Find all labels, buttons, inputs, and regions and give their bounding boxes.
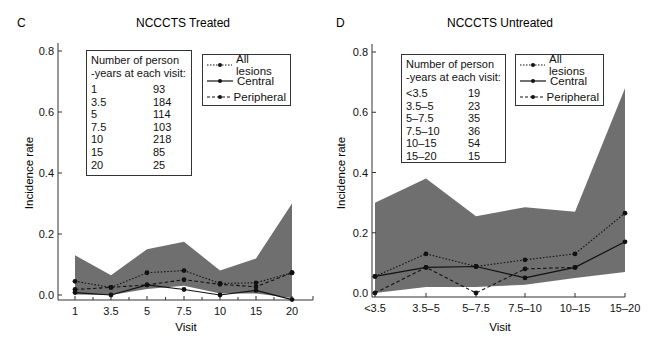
x-tick-label: <3.5 — [364, 302, 386, 314]
data-point — [145, 283, 150, 288]
legend-label: All lesions — [549, 53, 599, 77]
visit-cell: 15–20 — [406, 150, 468, 163]
data-point — [424, 265, 429, 270]
legend-item-peripheral: Peripheral — [520, 89, 599, 105]
value-cell: 114 — [153, 108, 171, 121]
visit-cell: <3.5 — [406, 87, 468, 100]
person-years-table-c: Number of person -years at each visit: 1… — [86, 50, 192, 176]
x-axis-label-c: Visit — [166, 321, 206, 333]
person-years-header-line1: Number of person — [91, 54, 187, 67]
y-tick-label: 0.4 — [353, 167, 368, 179]
person-years-header-d: Number of person -years at each visit: — [406, 58, 501, 84]
x-tick-label: 7.5–10 — [508, 302, 542, 314]
table-row: 3.5184 — [91, 96, 171, 109]
legend-item-peripheral: Peripheral — [207, 89, 286, 105]
figure: 0.00.20.40.60.813.557.51015200.00.20.40.… — [0, 0, 655, 341]
person-years-table-d: Number of person -years at each visit: <… — [401, 54, 506, 163]
dashed-line-marker-icon — [520, 93, 543, 101]
y-tick-label: 0.8 — [39, 45, 54, 57]
value-cell: 35 — [468, 112, 480, 125]
data-point — [623, 239, 628, 244]
data-point — [373, 291, 378, 296]
data-point — [373, 274, 378, 279]
legend-label: All lesions — [236, 53, 286, 77]
table-row: <3.519 — [406, 87, 480, 100]
table-row: 5114 — [91, 108, 171, 121]
person-years-header-line2: -years at each visit: — [406, 71, 501, 84]
legend-label: Peripheral — [547, 91, 599, 103]
y-tick-label: 0.6 — [39, 106, 54, 118]
visit-cell: 15 — [91, 146, 153, 159]
data-point — [523, 267, 528, 272]
value-cell: 23 — [468, 100, 480, 113]
visit-cell: 5–7.5 — [406, 112, 468, 125]
visit-cell: 1 — [91, 83, 153, 96]
x-axis-label-d: Visit — [480, 321, 520, 333]
solid-line-marker-icon — [520, 77, 546, 85]
visit-cell: 10–15 — [406, 137, 468, 150]
value-cell: 25 — [153, 159, 171, 172]
legend-label: Central — [237, 75, 274, 87]
value-cell: 218 — [153, 133, 171, 146]
value-cell: 19 — [468, 87, 480, 100]
y-tick-label: 0.0 — [39, 289, 54, 301]
panel-label-d: D — [336, 16, 345, 30]
value-cell: 93 — [153, 83, 171, 96]
visit-cell: 10 — [91, 133, 153, 146]
value-cell: 184 — [153, 96, 171, 109]
y-axis-label-c: Incidence rate — [23, 133, 35, 213]
data-point — [182, 268, 187, 273]
legend-label: Peripheral — [234, 91, 286, 103]
x-tick-label: 1 — [72, 305, 78, 317]
data-point — [145, 270, 150, 275]
data-point — [523, 257, 528, 262]
legend-d: All lesions Central Peripheral — [515, 54, 604, 106]
solid-line-marker-icon — [207, 77, 233, 85]
data-point — [290, 297, 295, 302]
value-cell: 85 — [153, 146, 171, 159]
confidence-band — [75, 204, 292, 299]
data-point — [218, 282, 223, 287]
person-years-header-line2: -years at each visit: — [91, 67, 187, 80]
value-cell: 15 — [468, 150, 480, 163]
x-tick-label: 20 — [286, 305, 298, 317]
x-tick-label: 15–20 — [610, 302, 641, 314]
legend-item-all-lesions: All lesions — [520, 57, 599, 73]
legend-item-all-lesions: All lesions — [207, 57, 286, 73]
table-row: 7.5–1036 — [406, 125, 480, 138]
y-tick-label: 0.0 — [353, 287, 368, 299]
table-row: 193 — [91, 83, 171, 96]
y-axis-label-d: Incidence rate — [335, 133, 347, 213]
value-cell: 103 — [153, 121, 171, 134]
dashed-line-marker-icon — [207, 93, 230, 101]
value-cell: 36 — [468, 125, 480, 138]
table-row: 10218 — [91, 133, 171, 146]
data-point — [182, 287, 187, 292]
data-point — [182, 277, 187, 282]
dotted-line-marker-icon — [207, 61, 232, 69]
data-point — [73, 287, 78, 292]
y-tick-label: 0.6 — [353, 106, 368, 118]
visit-cell: 7.5 — [91, 121, 153, 134]
y-tick-label: 0.2 — [39, 228, 54, 240]
table-row: 3.5–523 — [406, 100, 480, 113]
table-row: 2025 — [91, 159, 171, 172]
value-cell: 54 — [468, 137, 480, 150]
data-point — [109, 285, 114, 290]
y-tick-label: 0.2 — [353, 227, 368, 239]
table-row: 5–7.535 — [406, 112, 480, 125]
x-tick-label: 5–7.5 — [462, 302, 490, 314]
data-point — [573, 251, 578, 256]
x-tick-label: 7.5 — [176, 305, 191, 317]
data-point — [573, 265, 578, 270]
person-years-rows-d: <3.519 3.5–523 5–7.535 7.5–1036 10–1554 … — [406, 87, 480, 163]
table-row: 7.5103 — [91, 121, 171, 134]
x-tick-label: 5 — [144, 305, 150, 317]
data-point — [73, 279, 78, 284]
data-point — [290, 270, 295, 275]
data-point — [218, 293, 223, 298]
visit-cell: 3.5 — [91, 96, 153, 109]
data-point — [424, 251, 429, 256]
table-row: 10–1554 — [406, 137, 480, 150]
person-years-header-line1: Number of person — [406, 58, 501, 71]
